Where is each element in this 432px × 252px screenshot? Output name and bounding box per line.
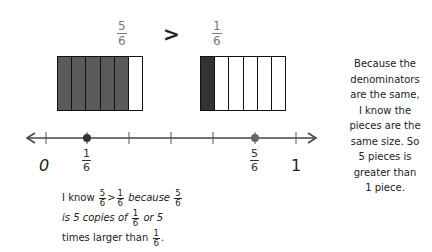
denominator: 6 <box>251 161 258 173</box>
point-label-one-sixth: 1 6 <box>82 148 91 173</box>
left-fraction-label: 5 6 <box>117 20 127 47</box>
point-one-sixth <box>83 134 91 142</box>
numerator: 5 <box>250 148 259 161</box>
fraction-bar-one-sixth <box>200 56 286 111</box>
side-line: Because the <box>340 56 430 72</box>
denominator: 6 <box>213 34 221 47</box>
bar-cell-shaded <box>115 57 129 110</box>
bar-cell-shaded <box>201 57 215 110</box>
numerator: 1 <box>82 148 91 161</box>
bar-cell-empty <box>129 57 142 110</box>
number-line <box>0 125 330 155</box>
numerator: 5 <box>117 20 127 34</box>
fraction-bar-five-sixths <box>57 56 143 111</box>
side-line: pieces are the <box>340 118 430 134</box>
bottom-explanation: I know 56>16 because 56 is 5 copies of 1… <box>62 188 222 248</box>
inline-fraction: 16 <box>117 189 124 207</box>
side-line: I know the <box>340 103 430 119</box>
bar-cell-empty <box>229 57 243 110</box>
side-line: 5 pieces is <box>340 149 430 165</box>
numerator: 1 <box>212 20 222 34</box>
point-five-sixths <box>251 134 259 142</box>
bar-cell-shaded <box>86 57 100 110</box>
bar-cell-shaded <box>58 57 72 110</box>
bar-cell-shaded <box>72 57 86 110</box>
axis-label-one: 1 <box>291 156 301 175</box>
bar-cell-empty <box>272 57 285 110</box>
bar-cell-empty <box>258 57 272 110</box>
side-line: are the same, <box>340 87 430 103</box>
denominator: 6 <box>83 161 90 173</box>
bar-cell-empty <box>215 57 229 110</box>
axis-label-zero: 0 <box>39 156 49 175</box>
side-line: greater than <box>340 165 430 181</box>
inline-fraction: 56 <box>174 189 181 207</box>
side-line: same size. So <box>340 134 430 150</box>
side-line: 1 piece. <box>340 180 430 196</box>
side-line: denominators <box>340 72 430 88</box>
bottom-line-2: is 5 copies of 16 or 5 <box>62 208 222 228</box>
inline-fraction: 16 <box>153 229 160 247</box>
right-fraction-label: 1 6 <box>212 20 222 47</box>
inline-fraction: 16 <box>132 209 139 227</box>
bar-cell-empty <box>244 57 258 110</box>
point-label-five-sixths: 5 6 <box>250 148 259 173</box>
inline-fraction: 56 <box>99 189 106 207</box>
bar-cell-shaded <box>101 57 115 110</box>
side-explanation: Because the denominators are the same, I… <box>340 56 430 196</box>
bottom-line-1: I know 56>16 because 56 <box>62 188 222 208</box>
greater-than-symbol: > <box>163 22 180 46</box>
bottom-line-3: times larger than 16. <box>62 228 222 248</box>
denominator: 6 <box>118 34 126 47</box>
